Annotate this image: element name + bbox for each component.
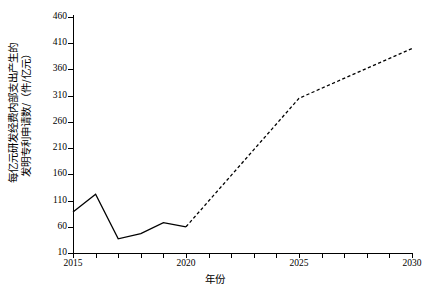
y-tick-410 [68,43,73,44]
y-axis-line [73,15,74,255]
y-axis-title-line-1: 每亿元研发经费内部支出产生的 [7,43,20,183]
x-tick-2027 [344,253,345,258]
y-tick-label-360: 360 [27,64,67,74]
y-tick-label-60: 60 [27,222,67,232]
y-tick-label-460: 460 [27,12,67,22]
y-tick-label-160: 160 [27,169,67,179]
y-tick-label-10: 10 [27,248,67,258]
y-tick-60 [68,227,73,228]
series-historical-line [73,194,186,239]
x-axis-title: 年份 [0,271,429,286]
y-tick-110 [68,201,73,202]
x-tick-2024 [276,253,277,258]
y-tick-360 [68,69,73,70]
y-tick-label-210: 210 [27,143,67,153]
x-tick-label-2025: 2025 [279,259,319,269]
x-tick-2016 [96,253,97,258]
x-tick-2021 [209,253,210,258]
x-tick-2023 [254,253,255,258]
x-tick-label-2030: 2030 [392,259,429,269]
x-tick-2026 [322,253,323,258]
series-forecast-line [186,48,412,226]
chart-figure: 每亿元研发经费内部支出产生的 发明专利申请数/（件/亿元） 1060110160… [0,0,429,287]
y-tick-160 [68,174,73,175]
y-tick-label-410: 410 [27,38,67,48]
y-tick-310 [68,96,73,97]
y-tick-210 [68,148,73,149]
y-tick-label-260: 260 [27,117,67,127]
y-tick-label-310: 310 [27,91,67,101]
y-tick-460 [68,17,73,18]
x-tick-label-2020: 2020 [166,259,206,269]
x-tick-2019 [163,253,164,258]
y-axis-title: 每亿元研发经费内部支出产生的 发明专利申请数/（件/亿元） [3,0,37,228]
y-tick-260 [68,122,73,123]
x-tick-2029 [389,253,390,258]
x-tick-2022 [231,253,232,258]
y-tick-label-110: 110 [27,196,67,206]
x-tick-2028 [367,253,368,258]
x-tick-2018 [141,253,142,258]
x-axis-line [73,253,413,254]
x-tick-label-2015: 2015 [53,259,93,269]
x-tick-2017 [118,253,119,258]
